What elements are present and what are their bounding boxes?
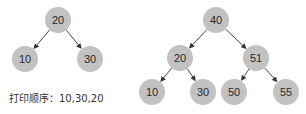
binary-tree-diagram: 20 10 30 打印顺序：10,30,20 40 20 51 10 30 50…: [0, 0, 306, 114]
left-tree-node-10: 10: [12, 46, 38, 72]
right-tree-node-10: 10: [139, 79, 165, 105]
node-label: 10: [146, 86, 158, 98]
left-tree-node-20: 20: [45, 7, 71, 33]
right-tree-node-50: 50: [221, 79, 247, 105]
node-label: 51: [250, 52, 262, 64]
print-order-caption: 打印顺序：10,30,20: [9, 90, 104, 105]
right-tree-node-55: 55: [273, 79, 299, 105]
right-tree-node-30: 30: [190, 79, 216, 105]
left-tree-node-30: 30: [77, 46, 103, 72]
right-tree-node-51: 51: [243, 45, 269, 71]
right-tree-node-40: 40: [203, 7, 229, 33]
node-label: 10: [19, 53, 31, 65]
node-label: 40: [210, 14, 222, 26]
node-label: 55: [280, 86, 292, 98]
node-label: 20: [174, 52, 186, 64]
node-label: 20: [52, 14, 64, 26]
node-label: 50: [228, 86, 240, 98]
node-label: 30: [84, 53, 96, 65]
node-label: 30: [197, 86, 209, 98]
right-tree-node-20: 20: [167, 45, 193, 71]
